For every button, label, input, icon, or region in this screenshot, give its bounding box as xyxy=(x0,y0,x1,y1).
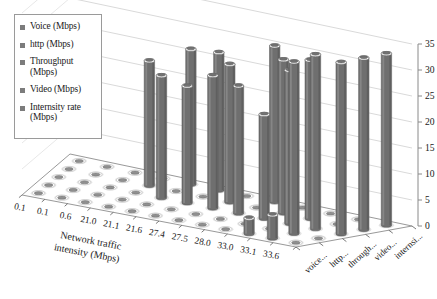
x-tick-label-4: 21.1 xyxy=(102,218,120,231)
x-tick-label-0: 0.1 xyxy=(13,201,27,213)
zero-cell-marker xyxy=(218,226,234,232)
bar-internsi-11 xyxy=(379,51,394,228)
depth-tick-label-0: voice... xyxy=(302,250,328,275)
zero-cell-marker xyxy=(115,177,131,183)
zero-cell-marker xyxy=(124,208,140,214)
zero-cell-marker xyxy=(51,174,67,180)
x-tick-label-8: 28.0 xyxy=(194,235,212,248)
chart-legend: Voice (Mbps)http (Mbps)Throughput (Mbps)… xyxy=(14,14,102,139)
z-tick-label-30: 30 xyxy=(425,64,435,75)
zero-cell-marker xyxy=(195,221,211,227)
depth-tick-label-3: video... xyxy=(372,237,399,263)
zero-cell-marker xyxy=(171,217,187,223)
zero-cell-marker xyxy=(139,201,155,207)
bar-through-11 xyxy=(334,60,349,237)
zero-cell-marker xyxy=(54,194,70,200)
legend-swatch-icon xyxy=(20,88,25,93)
x-tick-label-7: 27.5 xyxy=(171,231,189,244)
gridline-z-35 xyxy=(70,0,412,44)
legend-item-label: Video (Mbps) xyxy=(30,84,81,95)
zero-cell-marker xyxy=(102,184,118,190)
x-tick-label-2: 0.6 xyxy=(59,210,73,222)
zero-cell-marker xyxy=(288,239,304,245)
zero-cell-marker xyxy=(99,164,115,170)
zero-cell-marker xyxy=(114,196,130,202)
bar-through-6 xyxy=(205,73,220,211)
z-tick-label-15: 15 xyxy=(425,142,435,153)
x-tick-label-3: 21.0 xyxy=(80,214,98,227)
legend-item-label: http (Mbps) xyxy=(30,39,73,50)
bar-video-3 xyxy=(142,59,157,189)
bar-through-7 xyxy=(231,84,246,217)
z-tick-label-25: 25 xyxy=(425,90,435,101)
zero-cell-marker xyxy=(101,203,117,209)
bar-through-8 xyxy=(257,112,272,221)
zero-cell-marker xyxy=(127,169,143,175)
x-tick-label-10: 33.1 xyxy=(239,244,257,257)
legend-swatch-icon xyxy=(20,60,25,65)
zero-cell-marker xyxy=(168,188,184,194)
x-tick-label-9: 33.0 xyxy=(217,240,235,253)
z-tick-label-35: 35 xyxy=(425,38,435,49)
legend-item-label: Voice (Mbps) xyxy=(30,21,80,32)
legend-swatch-icon xyxy=(20,106,25,111)
bar-video-11 xyxy=(356,56,371,233)
bar-through-4 xyxy=(154,73,169,200)
chart-3d-cylinder: 051015202530350.10.10.621.021.121.627.42… xyxy=(0,0,437,299)
bar-through-10 xyxy=(308,52,323,231)
depth-tick-label-1: http... xyxy=(328,248,350,269)
legend-item-label: Internsity rate (Mbps) xyxy=(30,102,96,123)
z-tick-label-20: 20 xyxy=(425,116,435,127)
z-tick-label-0: 0 xyxy=(425,220,430,231)
legend-item-0: Voice (Mbps) xyxy=(20,21,96,32)
legend-swatch-icon xyxy=(20,43,25,48)
legend-item-4: Internsity rate (Mbps) xyxy=(20,102,96,123)
bar-voice-10 xyxy=(265,213,280,242)
z-tick-label-5: 5 xyxy=(425,194,430,205)
x-axis-title: Network trafficintensity (Mbps) xyxy=(53,228,123,265)
zero-cell-marker xyxy=(88,171,104,177)
legend-swatch-icon xyxy=(20,25,25,30)
zero-cell-marker xyxy=(188,211,204,217)
legend-item-2: Throughput (Mbps) xyxy=(20,56,96,77)
zero-cell-marker xyxy=(148,212,164,218)
zero-cell-marker xyxy=(128,189,144,195)
zero-cell-marker xyxy=(41,182,57,188)
zero-cell-marker xyxy=(164,206,180,212)
z-tick-label-10: 10 xyxy=(425,168,435,179)
x-tick-label-11: 33.6 xyxy=(262,248,280,261)
zero-cell-marker xyxy=(71,158,87,164)
bar-http-10 xyxy=(286,60,301,237)
zero-cell-marker xyxy=(78,199,94,205)
zero-cell-marker xyxy=(77,179,93,185)
x-tick-label-5: 21.6 xyxy=(125,222,143,235)
zero-cell-marker xyxy=(31,190,47,196)
zero-cell-marker xyxy=(213,216,229,222)
zero-cell-marker xyxy=(65,187,81,193)
zero-cell-marker xyxy=(61,166,77,172)
x-tick-label-1: 0.1 xyxy=(36,206,50,218)
legend-item-label: Throughput (Mbps) xyxy=(30,56,96,77)
legend-item-3: Video (Mbps) xyxy=(20,84,96,95)
zero-cell-marker xyxy=(90,192,106,198)
bar-voice-9 xyxy=(242,216,257,237)
x-tick-label-6: 27.4 xyxy=(148,227,166,240)
legend-item-1: http (Mbps) xyxy=(20,39,96,50)
zero-cell-marker xyxy=(311,235,327,241)
bar-through-5 xyxy=(180,84,195,206)
